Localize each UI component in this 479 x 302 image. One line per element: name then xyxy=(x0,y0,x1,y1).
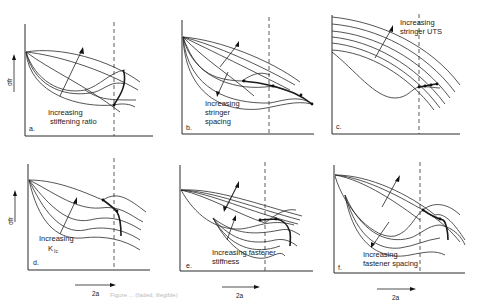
arrowhead-icon xyxy=(389,25,393,32)
curve xyxy=(332,52,440,98)
curve xyxy=(345,195,445,256)
curve xyxy=(183,37,300,82)
curve xyxy=(181,190,300,220)
curve xyxy=(29,180,141,230)
curve xyxy=(26,52,125,94)
increasing-arrow xyxy=(375,28,392,58)
curve xyxy=(335,176,423,236)
instability-point xyxy=(259,219,262,222)
arrowhead-icon xyxy=(223,206,227,212)
instability-point xyxy=(102,199,105,202)
x-axis-label: 2a xyxy=(92,290,100,297)
instability-point xyxy=(116,210,119,213)
arrowhead-icon xyxy=(232,215,236,221)
annotation: Increasing xyxy=(205,99,240,108)
curve xyxy=(183,37,312,104)
arrowhead-icon xyxy=(73,197,77,204)
panel-label: a. xyxy=(29,125,35,132)
annotation: Increasing fastener xyxy=(212,248,276,257)
arrowhead-icon xyxy=(235,41,239,47)
increasing-arrow xyxy=(60,200,76,234)
figure-caption: Figure ... (faded, illegible) xyxy=(110,292,178,298)
annotation: spacing xyxy=(205,117,231,126)
curve xyxy=(332,43,440,108)
panel-label: c. xyxy=(336,123,342,130)
panel-label: b. xyxy=(186,124,192,131)
curve xyxy=(183,37,312,109)
annotation: K xyxy=(48,244,53,253)
panel-d: σfr Increasing K Ic d. 2a xyxy=(7,158,150,297)
x-axis-label: 2a xyxy=(392,294,400,301)
residual-strength-diagram: σfr Increasing stiffening ratio a. xyxy=(0,0,479,302)
instability-point xyxy=(436,83,439,86)
residual-strength-envelope xyxy=(242,81,312,104)
annotation: Increasing xyxy=(39,234,74,243)
arrowhead-icon xyxy=(254,285,260,289)
panel-a: σfr Increasing stiffening ratio a. xyxy=(6,22,153,136)
annotation-subscript: Ic xyxy=(54,248,58,254)
x-axis-label: 2a xyxy=(236,292,244,299)
curve xyxy=(335,175,420,220)
instability-point xyxy=(311,103,314,106)
curve xyxy=(29,180,143,222)
curve xyxy=(332,31,450,98)
instability-point xyxy=(439,218,442,221)
curve xyxy=(181,190,294,229)
curve xyxy=(345,195,465,245)
arrowhead-icon xyxy=(12,54,16,60)
annotation: stringer xyxy=(205,108,231,117)
curve xyxy=(181,190,296,223)
curve xyxy=(26,51,140,82)
y-axis-label: σfr xyxy=(7,216,14,225)
annotation: Increasing xyxy=(400,18,435,27)
increasing-arrow xyxy=(60,50,82,96)
instability-point xyxy=(422,209,425,212)
annotation: stiffness xyxy=(212,257,240,266)
instability-point xyxy=(424,85,427,88)
annotation: Increasing xyxy=(363,250,398,259)
curve xyxy=(335,175,465,240)
curve xyxy=(345,195,440,248)
curve xyxy=(335,175,460,242)
panel-label: d. xyxy=(33,259,39,266)
y-axis-label: σfr xyxy=(6,77,13,86)
curve xyxy=(26,52,120,112)
arrowhead-icon xyxy=(110,283,116,287)
annotation: fastener spacing xyxy=(363,259,418,268)
panel-f: Increasing fastener spacing f. 2a xyxy=(334,162,465,301)
instability-point xyxy=(272,85,275,88)
arrowhead-icon xyxy=(235,181,239,188)
arrowhead-icon xyxy=(410,287,416,291)
instability-point xyxy=(275,218,278,221)
panel-c: Increasing stringer UTS c. xyxy=(332,14,460,134)
instability-point xyxy=(113,104,116,107)
arrowhead-icon xyxy=(13,190,17,196)
panel-label: f. xyxy=(338,264,342,271)
instability-point xyxy=(418,86,421,89)
annotation: stringer UTS xyxy=(400,27,442,36)
panel-label: e. xyxy=(186,262,192,269)
instability-point xyxy=(300,94,303,97)
annotation: Increasing xyxy=(48,108,83,117)
curve xyxy=(85,90,136,100)
panel-b: Increasing stringer spacing b. xyxy=(182,17,314,134)
instability-point xyxy=(430,84,433,87)
annotation: stiffening ratio xyxy=(50,117,97,126)
arrowhead-icon xyxy=(79,47,84,54)
panel-e: Increasing fastener stiffness e. 2a xyxy=(180,162,313,299)
instability-point xyxy=(243,80,246,83)
arrowhead-icon xyxy=(395,175,400,182)
